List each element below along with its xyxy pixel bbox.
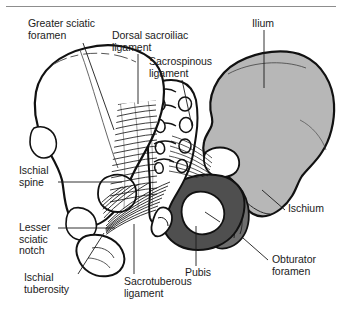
anatomy-figure: Greater sciaticforamen Dorsal sacroiliac…	[0, 0, 341, 311]
leader-obturator-foramen	[243, 238, 268, 260]
label-lesser-sciatic-notch: Lessersciaticnotch	[19, 222, 50, 257]
label-sacrospinous-ligament: Sacrospinousligament	[149, 56, 212, 79]
label-ischium: Ischium	[288, 203, 324, 215]
label-pubis: Pubis	[185, 267, 211, 279]
label-ilium: Ilium	[252, 18, 274, 30]
label-greater-sciatic-foramen: Greater sciaticforamen	[28, 18, 95, 41]
label-obturator-foramen: Obturatorforamen	[272, 254, 316, 277]
label-sacrotuberous-ligament: Sacrotuberousligament	[124, 276, 192, 299]
label-ischial-spine: Ischialspine	[19, 165, 48, 188]
label-dorsal-sacroiliac-ligament: Dorsal sacroiliacligament	[112, 30, 188, 53]
label-ischial-tuberosity: Ischialtuberosity	[24, 272, 69, 295]
